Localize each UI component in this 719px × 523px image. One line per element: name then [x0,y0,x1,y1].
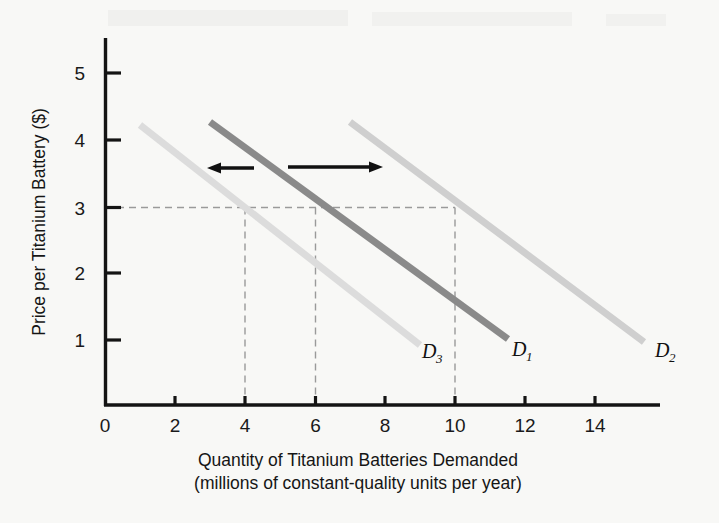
y-tick-label-3: 3 [74,198,85,219]
curve-label-d3: D [421,340,437,362]
y-tick-label-5: 5 [74,63,85,84]
curve-label-d1: D [511,338,527,360]
y-tick-label-2: 2 [74,263,85,284]
x-tick-label-2: 2 [170,415,181,436]
curve-label-d2: D [654,339,670,361]
x-axis-subtitle: (millions of constant-quality units per … [194,473,522,493]
y-axis-title: Price per Titanium Battery ($) [29,108,49,336]
x-tick-label-6: 6 [310,415,321,436]
x-tick-label-0: 0 [100,415,111,436]
curve-label-d1-subscript: 1 [526,349,533,364]
x-tick-label-12: 12 [514,415,535,436]
figure-canvas: D 3 D 1 D 2 [0,0,719,523]
x-tick-label-8: 8 [380,415,391,436]
x-tick-label-10: 10 [444,415,465,436]
figure-background [0,0,719,523]
curve-label-d2-subscript: 2 [669,350,676,365]
curve-label-d3-subscript: 3 [435,351,443,366]
x-axis-title: Quantity of Titanium Batteries Demanded [198,450,518,470]
x-tick-label-14: 14 [584,415,606,436]
x-tick-label-4: 4 [240,415,251,436]
y-tick-label-1: 1 [74,330,85,351]
y-tick-label-4: 4 [74,130,85,151]
